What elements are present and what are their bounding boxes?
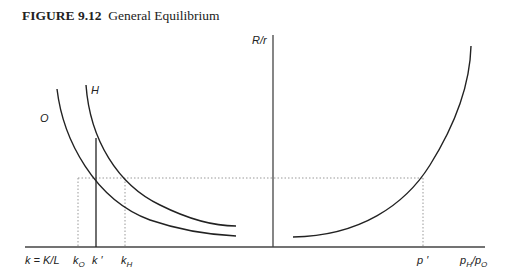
- curve-h: [86, 85, 236, 226]
- x-axis-right-label: pH/pO: [459, 254, 487, 269]
- curve-o-label: O: [40, 112, 49, 124]
- x-axis-left-label: k = K/L: [25, 254, 60, 266]
- curve-h-label: H: [91, 84, 99, 96]
- k-h-label: kH: [121, 254, 133, 269]
- curve-rr: [293, 46, 471, 237]
- diagram: R/r O H k = K/L kO k ′ kH p ′ pH/pO: [0, 0, 515, 277]
- vertical-axis-label: R/r: [252, 34, 268, 46]
- p-prime-label: p ′: [416, 254, 429, 266]
- k-o-label: kO: [73, 254, 85, 269]
- curve-o: [57, 89, 236, 236]
- k-prime-label: k ′: [92, 254, 104, 266]
